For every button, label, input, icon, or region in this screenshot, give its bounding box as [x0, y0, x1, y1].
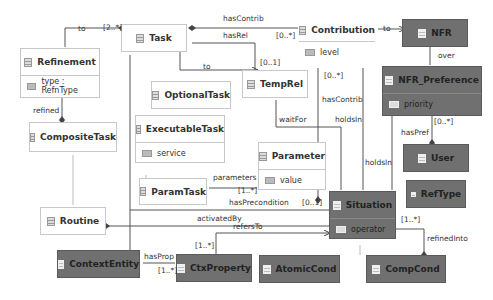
label-has-rel: hasRel: [223, 31, 248, 40]
label-to-refinement: to: [78, 24, 86, 33]
class-task[interactable]: Task: [121, 24, 187, 52]
class-icon: [177, 264, 185, 273]
class-contribution[interactable]: Contribution level: [298, 18, 376, 62]
label-holds-in-1: holdsIn: [335, 115, 362, 124]
class-name: Contribution: [311, 25, 375, 35]
attribute: type : RefnType: [41, 77, 99, 95]
attribute-icon: [389, 101, 399, 108]
class-name: ParamTask: [151, 187, 206, 197]
class-icon: [418, 154, 426, 163]
attribute-icon: [265, 177, 275, 184]
class-name: RefType: [421, 189, 461, 199]
class-name: NFR: [431, 28, 452, 38]
class-routine[interactable]: Routine: [40, 207, 106, 235]
mult-0-star-contrib: [0..*]: [276, 31, 295, 40]
class-name: CompCond: [385, 264, 439, 274]
class-parameter[interactable]: Parameter value: [258, 142, 326, 190]
class-comp-cond[interactable]: CompCond: [366, 255, 446, 283]
mult-1-star-param: [1..*]: [238, 186, 257, 195]
label-refers-to: refersTo: [233, 222, 263, 231]
label-refined-into: refinedInto: [427, 234, 468, 243]
class-icon: [58, 260, 64, 269]
attribute-icon: [142, 150, 152, 157]
class-name: ExecutableTask: [146, 124, 224, 134]
class-name: User: [431, 153, 454, 163]
class-name: OptionalTask: [164, 90, 230, 100]
class-icon: [136, 125, 141, 134]
label-parameters: parameters: [213, 173, 257, 182]
class-executable-task[interactable]: ExecutableTask service: [135, 115, 225, 163]
class-icon: [30, 133, 35, 142]
attribute: operator: [351, 225, 385, 234]
class-param-task[interactable]: ParamTask: [139, 178, 207, 205]
mult-1-star-reftype: [1..*]: [401, 215, 420, 224]
class-icon: [299, 26, 306, 35]
class-icon: [152, 91, 159, 100]
label-to-nfr: to: [383, 24, 391, 33]
class-icon: [263, 265, 271, 274]
class-icon: [411, 192, 416, 197]
label-over: over: [438, 51, 455, 60]
class-nfr[interactable]: NFR: [402, 19, 468, 47]
attribute-icon: [27, 83, 36, 90]
class-optional-task[interactable]: OptionalTask: [151, 81, 231, 109]
label-wait-for: waitFor: [279, 115, 306, 124]
class-refinement[interactable]: Refinement type : RefnType: [20, 48, 100, 98]
mult-0-1-temprel: [0..1]: [260, 58, 280, 67]
attribute-icon: [305, 49, 315, 56]
label-holds-in-2: holdsIn: [365, 158, 392, 167]
label-has-pref: hasPref: [401, 128, 429, 137]
label-refined: refined: [33, 106, 59, 115]
class-name: AtomicCond: [276, 264, 337, 274]
class-name: Routine: [60, 216, 99, 226]
class-name: ContextEntity: [69, 259, 139, 269]
class-name: Refinement: [37, 57, 95, 67]
class-composite-task[interactable]: CompositeTask: [29, 122, 117, 152]
class-icon: [140, 187, 146, 196]
class-user[interactable]: User: [403, 144, 469, 172]
class-icon: [418, 29, 426, 38]
attribute-icon: [336, 226, 346, 233]
mult-1-star-ctx: [1..*]: [195, 241, 214, 250]
class-name: CtxProperty: [190, 263, 251, 273]
class-name: Parameter: [272, 151, 325, 161]
mult-1-star-hasprop: [1..*]: [158, 266, 177, 275]
label-has-contrib-top: hasContrib: [223, 14, 264, 23]
class-context-entity[interactable]: ContextEntity: [57, 250, 140, 278]
class-name: Situation: [346, 200, 392, 210]
class-temprel[interactable]: TempRel: [242, 70, 308, 98]
label-has-contrib-mid: hasContrib: [322, 95, 363, 104]
class-ctx-property[interactable]: CtxProperty: [176, 254, 252, 282]
class-icon: [47, 217, 55, 226]
class-name: TempRel: [260, 79, 303, 89]
class-icon: [136, 34, 144, 43]
label-has-precondition: hasPrecondition: [229, 198, 289, 207]
label-has-prop: hasProp: [144, 252, 174, 261]
mult-2-star: [2..*]: [103, 23, 122, 32]
class-icon: [372, 265, 380, 274]
class-name: NFR_Preference: [398, 75, 479, 85]
mult-0-star-level: [0..*]: [324, 71, 343, 80]
class-icon: [259, 152, 267, 161]
attribute: service: [157, 149, 186, 158]
class-situation[interactable]: Situation operator: [329, 191, 396, 239]
attribute: priority: [404, 100, 433, 109]
class-name: CompositeTask: [40, 132, 116, 142]
class-icon: [385, 76, 393, 85]
class-ref-type[interactable]: RefType: [406, 180, 466, 208]
attribute: value: [280, 176, 302, 185]
label-to-temprel: to: [203, 62, 211, 71]
class-icon: [247, 80, 255, 89]
attribute: level: [320, 48, 339, 57]
class-atomic-cond[interactable]: AtomicCond: [259, 255, 340, 283]
mult-0-star-pref: [0..*]: [434, 117, 453, 126]
class-nfr-preference[interactable]: NFR_Preference priority: [382, 66, 482, 116]
class-icon: [24, 58, 32, 67]
class-name: Task: [149, 33, 171, 43]
mult-0-1-precond: [0..1]: [302, 198, 322, 207]
class-icon: [333, 201, 341, 210]
